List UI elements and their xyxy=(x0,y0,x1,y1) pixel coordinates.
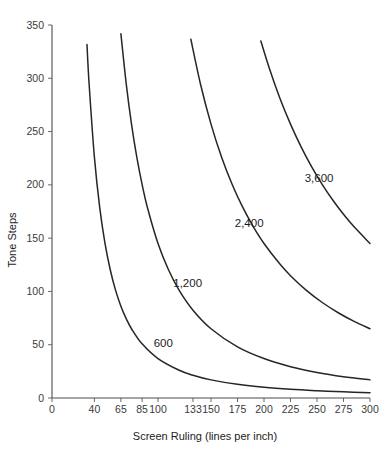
y-tick-label: 350 xyxy=(26,19,44,31)
curve-label-2400: 2,400 xyxy=(235,217,264,229)
y-axis-ticks: 050100150200250300350 xyxy=(26,19,52,404)
y-tick-label: 0 xyxy=(38,392,44,404)
y-tick-label: 100 xyxy=(26,285,44,297)
curve-group xyxy=(87,34,370,393)
x-tick-label: 85 xyxy=(136,403,148,415)
y-tick-label: 250 xyxy=(26,125,44,137)
y-tick-label: 150 xyxy=(26,232,44,244)
curve-label-group: 6001,2002,4003,600 xyxy=(154,172,334,349)
curve-3600 xyxy=(261,41,370,243)
x-tick-label: 225 xyxy=(282,403,300,415)
x-tick-label: 275 xyxy=(335,403,353,415)
x-tick-label: 40 xyxy=(89,403,101,415)
x-tick-label: 100 xyxy=(149,403,167,415)
x-tick-label: 150 xyxy=(202,403,220,415)
chart-container: 050100150200250300350 040658510013315017… xyxy=(0,0,390,452)
curve-2400 xyxy=(191,39,370,328)
x-tick-label: 0 xyxy=(49,403,55,415)
x-tick-label: 200 xyxy=(255,403,273,415)
y-axis-title: Tone Steps xyxy=(6,212,18,268)
y-tick-label: 300 xyxy=(26,72,44,84)
curve-label-600: 600 xyxy=(154,337,173,349)
x-tick-label: 250 xyxy=(308,403,326,415)
curve-600 xyxy=(87,45,370,393)
x-tick-label: 65 xyxy=(115,403,127,415)
curve-label-3600: 3,600 xyxy=(305,172,334,184)
x-tick-label: 300 xyxy=(361,403,379,415)
x-axis-title: Screen Ruling (lines per inch) xyxy=(133,430,277,442)
y-tick-label: 200 xyxy=(26,178,44,190)
curve-1200 xyxy=(121,34,370,380)
y-tick-label: 50 xyxy=(32,338,44,350)
curve-label-1200: 1,200 xyxy=(173,277,202,289)
tone-steps-chart: 050100150200250300350 040658510013315017… xyxy=(0,0,390,452)
x-axis-ticks: 0406585100133150175200225250275300 xyxy=(49,398,379,415)
x-tick-label: 175 xyxy=(229,403,247,415)
x-tick-label: 133 xyxy=(184,403,202,415)
